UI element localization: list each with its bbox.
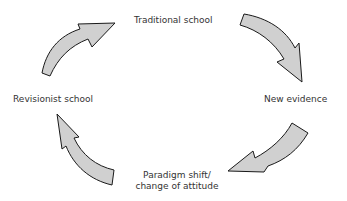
node-traditional-school: Traditional school bbox=[134, 15, 213, 26]
arrow-revisionist-to-traditional bbox=[42, 23, 115, 76]
arrow-paradigm-to-revisionist bbox=[57, 114, 114, 185]
arrow-evidence-to-paradigm bbox=[228, 123, 308, 172]
arrow-traditional-to-evidence bbox=[240, 14, 302, 82]
node-new-evidence: New evidence bbox=[264, 94, 327, 105]
node-paradigm-line2: change of attitude bbox=[127, 181, 227, 192]
node-paradigm-line1: Paradigm shift/ bbox=[127, 170, 227, 181]
node-revisionist-school: Revisionist school bbox=[13, 94, 93, 105]
node-paradigm-shift: Paradigm shift/ change of attitude bbox=[127, 170, 227, 192]
